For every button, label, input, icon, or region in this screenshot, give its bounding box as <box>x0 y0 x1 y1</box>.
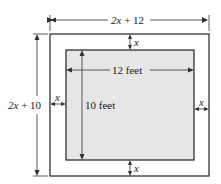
top-border-label: x <box>134 36 139 48</box>
border-diagram <box>0 0 221 184</box>
right-border-label: x <box>199 96 204 108</box>
left-border-label: x <box>55 91 60 103</box>
outer-width-label: 2x + 12 <box>111 14 144 26</box>
bottom-border-label: x <box>134 162 139 174</box>
outer-height-rest: + 10 <box>18 99 41 111</box>
outer-width-rest: + 12 <box>121 14 144 26</box>
outer-width-var: 2x <box>111 14 121 26</box>
outer-height-label: 2x + 10 <box>8 99 41 111</box>
outer-height-var: 2x <box>8 99 18 111</box>
inner-width-label: 12 feet <box>112 64 142 76</box>
inner-height-label: 10 feet <box>85 99 115 111</box>
